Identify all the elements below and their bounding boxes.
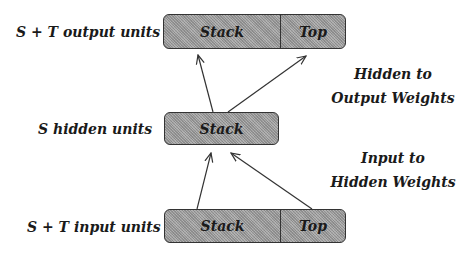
output-top-cell: Top	[280, 15, 345, 48]
hidden-stack-cell: Stack	[165, 113, 278, 144]
hidden-to-output-weights-label: Hidden to Output Weights	[326, 62, 459, 110]
input-layer-label: S + T input units	[27, 220, 161, 234]
arrow-hidden-to-output-top	[228, 56, 306, 112]
arrow-input-top-to-hidden	[231, 153, 312, 209]
hidden-layer-box: Stack	[164, 112, 279, 145]
input-stack-cell: Stack	[165, 210, 280, 242]
output-layer-box: Stack Top	[163, 14, 346, 49]
hidden-layer-label: S hidden units	[38, 122, 152, 136]
output-layer-label: S + T output units	[16, 25, 160, 39]
input-to-hidden-line2: Hidden Weights	[326, 170, 459, 194]
input-to-hidden-weights-label: Input to Hidden Weights	[326, 146, 459, 194]
arrow-hidden-to-output-stack	[198, 55, 213, 112]
hidden-to-output-line1: Hidden to	[326, 62, 459, 86]
input-layer-box: Stack Top	[164, 209, 346, 243]
input-top-cell: Top	[280, 210, 345, 242]
hidden-to-output-line2: Output Weights	[326, 86, 459, 110]
output-stack-cell: Stack	[164, 15, 280, 48]
input-to-hidden-line1: Input to	[326, 146, 459, 170]
arrow-input-stack-to-hidden	[197, 153, 211, 209]
